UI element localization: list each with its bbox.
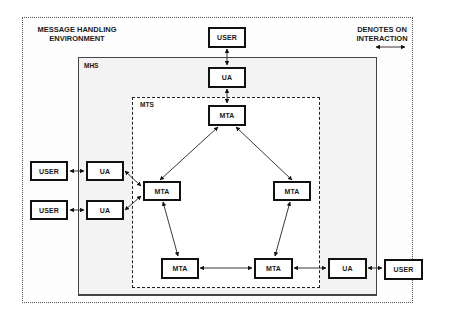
mta-node-bottom-right: MTA (254, 258, 293, 279)
mta-node-bottom-left: MTA (161, 258, 199, 279)
ua-node-top: UA (208, 67, 246, 88)
user-node-left-2: USER (30, 200, 68, 220)
ua-node-left-2: UA (86, 200, 124, 220)
ua-node-left-1: UA (86, 161, 124, 181)
user-node-right: USER (384, 259, 423, 280)
ua-node-right: UA (328, 258, 367, 279)
user-node-top: USER (208, 27, 246, 48)
mta-node-right: MTA (273, 181, 311, 201)
user-node-left-1: USER (30, 161, 68, 181)
mta-node-left: MTA (143, 181, 181, 201)
mta-node-top: MTA (208, 105, 246, 126)
